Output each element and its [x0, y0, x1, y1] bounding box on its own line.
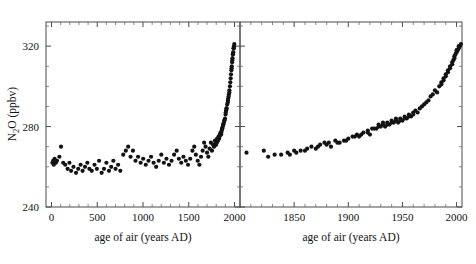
- left-panel-xticklabel: 1500: [178, 211, 201, 223]
- data-point: [199, 155, 203, 159]
- data-point: [181, 155, 185, 159]
- left-panel-points: [50, 42, 236, 175]
- right-panel-xticklabel: 1850: [283, 211, 306, 223]
- data-point: [381, 120, 385, 124]
- data-point: [394, 116, 398, 120]
- data-point: [95, 167, 99, 171]
- data-point: [154, 165, 158, 169]
- data-point: [133, 159, 137, 163]
- data-point: [85, 161, 89, 165]
- data-point: [221, 122, 225, 126]
- left-panel-xticklabel: 500: [89, 211, 106, 223]
- data-point: [452, 54, 456, 58]
- data-point: [55, 159, 59, 163]
- yaxis-title-rest: O (ppbv): [6, 87, 19, 129]
- data-point: [92, 163, 96, 167]
- data-point: [232, 46, 236, 50]
- yticklabel: 240: [23, 201, 40, 213]
- left-panel-xaxis-title: age of air (years AD): [94, 231, 191, 244]
- data-point: [196, 159, 200, 163]
- data-point: [435, 90, 439, 94]
- data-point: [288, 153, 292, 157]
- data-point: [78, 163, 82, 167]
- data-point: [167, 163, 171, 167]
- data-point: [157, 159, 161, 163]
- data-point: [175, 149, 179, 153]
- data-point: [194, 153, 198, 157]
- data-point: [128, 155, 132, 159]
- data-point: [202, 141, 206, 145]
- data-point: [303, 149, 307, 153]
- data-point: [359, 133, 363, 137]
- data-point: [144, 163, 148, 167]
- data-point: [81, 169, 85, 173]
- data-point: [67, 161, 71, 165]
- data-point: [227, 90, 231, 94]
- data-point: [188, 157, 192, 161]
- yticklabel: 280: [23, 121, 40, 133]
- data-point: [372, 126, 376, 130]
- data-point: [411, 112, 415, 116]
- data-point: [162, 161, 166, 165]
- data-point: [229, 76, 233, 80]
- data-point: [214, 143, 218, 147]
- data-point: [390, 120, 394, 124]
- data-point: [294, 151, 298, 155]
- data-point: [136, 155, 140, 159]
- data-point: [124, 149, 128, 153]
- data-point: [116, 163, 120, 167]
- data-point: [172, 153, 176, 157]
- data-point: [186, 163, 190, 167]
- data-point: [141, 157, 145, 161]
- data-point: [57, 155, 61, 159]
- data-point: [131, 149, 135, 153]
- right-panel: 1850190019502000age of air (years AD): [240, 22, 468, 244]
- left-panel-xticklabel: 0: [49, 211, 55, 223]
- data-point: [146, 159, 150, 163]
- data-point: [224, 106, 228, 110]
- data-point: [279, 153, 283, 157]
- data-point: [113, 167, 117, 171]
- right-panel-frame: [240, 22, 462, 207]
- data-point: [232, 42, 236, 46]
- data-point: [121, 153, 125, 157]
- data-point: [203, 145, 207, 149]
- data-point: [309, 145, 313, 149]
- data-point: [74, 171, 78, 175]
- data-point: [262, 149, 266, 153]
- data-point: [83, 165, 87, 169]
- data-point: [197, 163, 201, 167]
- data-point: [439, 82, 443, 86]
- data-point: [184, 159, 188, 163]
- right-panel-points: [244, 42, 463, 159]
- data-point: [169, 159, 173, 163]
- data-point: [190, 149, 194, 153]
- data-point: [205, 151, 209, 155]
- data-point: [164, 157, 168, 161]
- data-point: [229, 66, 233, 70]
- data-point: [159, 153, 163, 157]
- data-point: [426, 98, 430, 102]
- data-point: [335, 141, 339, 145]
- data-point: [206, 155, 210, 159]
- data-point: [329, 145, 333, 149]
- data-point: [353, 135, 357, 139]
- data-point: [63, 163, 67, 167]
- data-point: [444, 72, 448, 76]
- data-point: [222, 118, 226, 122]
- data-point: [192, 145, 196, 149]
- data-point: [231, 52, 235, 56]
- data-point: [179, 161, 183, 165]
- right-panel-xticklabel: 1950: [391, 211, 414, 223]
- data-point: [109, 165, 113, 169]
- data-point: [59, 145, 63, 149]
- data-point: [230, 58, 234, 62]
- left-panel: 0500100015002000240280320age of air (yea…: [23, 22, 247, 244]
- data-point: [201, 149, 205, 153]
- data-point: [385, 122, 389, 126]
- scatter-chart-svg: 0500100015002000240280320age of air (yea…: [0, 0, 476, 264]
- data-point: [266, 155, 270, 159]
- data-point: [244, 151, 248, 155]
- data-point: [226, 98, 230, 102]
- data-point: [126, 145, 130, 149]
